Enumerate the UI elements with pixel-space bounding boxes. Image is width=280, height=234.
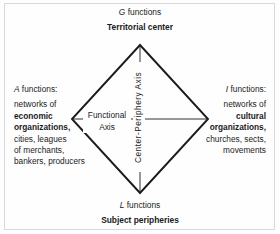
- left-apex-line-0: networks of: [14, 99, 92, 110]
- right-apex-functions: I functions:: [188, 84, 266, 95]
- bottom-apex-functions: L functions: [0, 200, 280, 210]
- left-apex-functions: A functions:: [14, 84, 92, 95]
- left-apex-line-4: of merchants,: [14, 145, 92, 156]
- functional-axis-label-line1: Functional: [83, 110, 131, 122]
- top-apex-letter: G: [119, 7, 126, 17]
- left-apex-line-5: bankers, producers: [14, 156, 92, 167]
- right-apex-line-4: movements: [188, 145, 266, 156]
- functional-axis-label-line2: Axis: [83, 122, 131, 134]
- right-apex-block: I functions: networks of cultural organi…: [188, 84, 266, 156]
- functional-axis-label: Functional Axis: [83, 110, 131, 133]
- left-apex-block: A functions: networks of economic organi…: [14, 84, 92, 168]
- right-apex-line-3: churches, sects,: [188, 134, 266, 145]
- bottom-apex-letter: L: [120, 200, 125, 210]
- right-apex-line-1: cultural: [188, 111, 266, 122]
- left-apex-line-2: organizations,: [14, 122, 92, 133]
- left-apex-letter: A: [14, 84, 20, 94]
- bottom-apex-title: Subject peripheries: [0, 215, 280, 225]
- top-apex-title: Territorial center: [0, 22, 280, 32]
- left-apex-functions-text: functions:: [22, 84, 58, 94]
- diagram-figure: G functions Territorial center L functio…: [0, 0, 280, 234]
- right-apex-line-2: organizations,: [188, 122, 266, 133]
- center-periphery-axis-label: Center-Periphery Axis: [133, 62, 145, 172]
- top-apex-labels: G functions Territorial center: [0, 7, 280, 32]
- right-apex-line-0: networks of: [188, 99, 266, 110]
- right-apex-letter: I: [226, 84, 228, 94]
- left-apex-line-1: economic: [14, 111, 92, 122]
- top-apex-functions: G functions: [0, 7, 280, 17]
- left-apex-line-3: cities, leagues: [14, 134, 92, 145]
- bottom-apex-functions-text: functions: [127, 200, 161, 210]
- top-apex-functions-text: functions: [128, 7, 162, 17]
- right-apex-functions-text: functions:: [230, 84, 266, 94]
- bottom-apex-labels: L functions Subject peripheries: [0, 200, 280, 225]
